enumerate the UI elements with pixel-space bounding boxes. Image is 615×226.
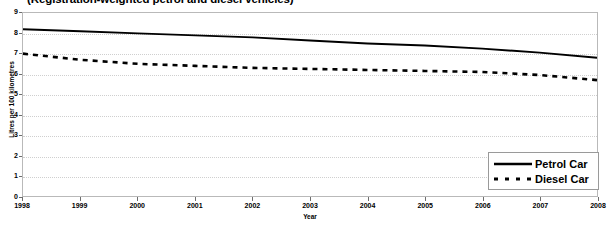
x-tick-label: 2008 (578, 202, 615, 209)
chart-legend: Petrol Car Diesel Car (488, 152, 599, 190)
x-tick-mark (195, 197, 196, 201)
y-tick-label: 1 (0, 172, 18, 179)
y-tick-label: 0 (0, 193, 18, 200)
x-tick-mark (252, 197, 253, 201)
x-axis-title: Year (22, 213, 598, 220)
x-tick-label: 2004 (348, 202, 388, 209)
legend-swatch-solid-line (493, 159, 533, 169)
x-tick-mark (483, 197, 484, 201)
x-tick-mark (540, 197, 541, 201)
x-tick-mark (310, 197, 311, 201)
legend-label-diesel-car: Diesel Car (533, 173, 589, 185)
y-tick-label: 8 (0, 29, 18, 36)
x-tick-mark (137, 197, 138, 201)
y-tick-label: 6 (0, 70, 18, 77)
x-tick-mark (80, 197, 81, 201)
x-tick-label: 1998 (2, 202, 42, 209)
x-tick-label: 2002 (232, 202, 272, 209)
x-tick-label: 2000 (117, 202, 157, 209)
series-line-petrol-car (23, 29, 597, 57)
x-tick-label: 2003 (290, 202, 330, 209)
y-tick-label: 3 (0, 131, 18, 138)
x-tick-mark (598, 197, 599, 201)
x-tick-label: 1999 (60, 202, 100, 209)
legend-label-petrol-car: Petrol Car (533, 158, 588, 170)
y-tick-label: 9 (0, 8, 18, 15)
plot-area: Petrol Car Diesel Car (22, 12, 598, 197)
x-tick-label: 2007 (520, 202, 560, 209)
y-tick-label: 4 (0, 111, 18, 118)
legend-item-diesel-car: Diesel Car (493, 171, 593, 186)
x-tick-mark (22, 197, 23, 201)
x-tick-label: 2001 (175, 202, 215, 209)
legend-swatch-dashed-line (493, 174, 533, 184)
y-tick-label: 2 (0, 152, 18, 159)
series-line-diesel-car (23, 54, 597, 80)
legend-item-petrol-car: Petrol Car (493, 156, 593, 171)
y-tick-label: 7 (0, 49, 18, 56)
x-tick-mark (425, 197, 426, 201)
x-tick-mark (368, 197, 369, 201)
y-tick-label: 5 (0, 90, 18, 97)
x-tick-label: 2005 (405, 202, 445, 209)
fuel-consumption-chart: (Registration-weighted petrol and diesel… (0, 0, 615, 226)
chart-title: (Registration-weighted petrol and diesel… (27, 0, 587, 7)
x-tick-label: 2006 (463, 202, 503, 209)
